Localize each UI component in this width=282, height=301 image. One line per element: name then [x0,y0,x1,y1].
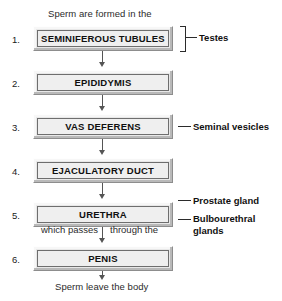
step-box-vas-deferens[interactable]: VAS DEFERENS [33,114,173,139]
step-number-1: 1. [12,34,30,45]
step-number-2: 2. [12,78,30,89]
step-box-seminiferous-tubules[interactable]: SEMINIFEROUS TUBULES [33,26,173,51]
annotation-seminal-vesicles: Seminal vesicles [193,121,269,133]
step-box-inner: PENIS [37,250,169,267]
leader-dash-bulbourethral-glands [178,219,191,220]
mid-text-which-passes: which passes [41,224,98,235]
mid-text-through-the: through the [110,224,158,235]
step-label-3: VAS DEFERENS [65,121,141,132]
annotation-prostate-gland: Prostate gland [193,195,259,207]
arrowhead-6-exit [99,275,105,280]
sperm-pathway-flowchart: Sperm are formed in the 1. SEMINIFEROUS … [0,0,282,301]
step-box-inner: SEMINIFEROUS TUBULES [37,30,169,47]
caption-top: Sperm are formed in the [48,8,152,19]
arrowhead-4-5 [99,194,105,199]
arrowhead-1-2 [99,62,105,67]
leader-dash-seminal-vesicles [178,126,191,127]
leader-dash-prostate-gland [178,200,191,201]
step-box-epididymis[interactable]: EPIDIDYMIS [33,70,173,95]
arrowhead-2-3 [99,106,105,111]
step-box-inner: URETHRA [37,206,169,223]
step-label-5: URETHRA [79,209,127,220]
step-label-2: EPIDIDYMIS [75,77,132,88]
step-number-3: 3. [12,122,30,133]
annotation-bulbourethral-glands: Bulbourethral glands [193,213,273,236]
step-box-penis[interactable]: PENIS [33,246,173,271]
step-number-5: 5. [12,210,30,221]
step-number-6: 6. [12,254,30,265]
step-label-1: SEMINIFEROUS TUBULES [41,33,165,44]
leader-dash-testes [186,37,197,38]
caption-bottom: Sperm leave the body [55,281,148,292]
arrowhead-3-4 [99,150,105,155]
annotation-testes: Testes [199,32,228,44]
step-box-inner: EPIDIDYMIS [37,74,169,91]
step-number-4: 4. [12,166,30,177]
bracket-testes [180,26,186,52]
step-box-inner: EJACULATORY DUCT [37,162,169,179]
step-label-6: PENIS [88,253,118,264]
step-box-ejaculatory-duct[interactable]: EJACULATORY DUCT [33,158,173,183]
step-label-4: EJACULATORY DUCT [52,165,154,176]
step-box-inner: VAS DEFERENS [37,118,169,135]
arrowhead-5-6 [99,238,105,243]
